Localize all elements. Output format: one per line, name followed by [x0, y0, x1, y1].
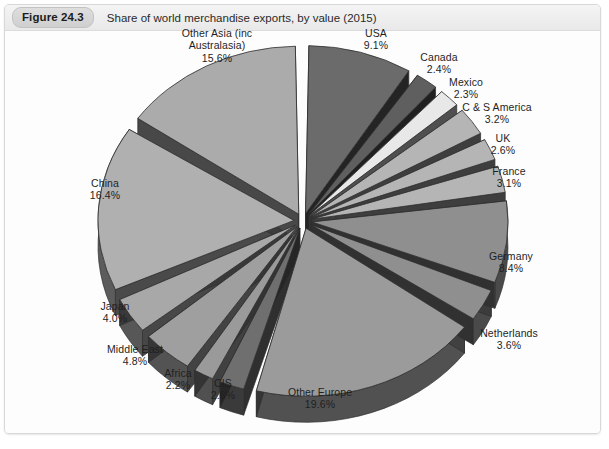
label-value: 3.6%	[497, 339, 521, 351]
label-mexico: Mexico2.3%	[435, 76, 497, 101]
label-text: C & S America	[462, 101, 532, 113]
label-text: Mexico	[449, 76, 483, 88]
label-c-s-america: C & S America3.2%	[445, 101, 549, 126]
figure-title: Share of world merchandise exports, by v…	[107, 12, 377, 24]
label-value: 4.8%	[123, 355, 147, 367]
label-text: UK	[496, 132, 511, 144]
label-other-asia: Other Asia (inc Australasia)15.6%	[161, 27, 273, 64]
label-cis: CIS2.6%	[203, 377, 243, 402]
label-value: 2.6%	[211, 389, 235, 401]
label-text: Germany	[489, 250, 533, 262]
label-usa: USA9.1%	[348, 27, 404, 52]
label-text: Canada	[420, 51, 457, 63]
label-value: 15.6%	[202, 52, 232, 64]
label-value: 2.4%	[427, 63, 451, 75]
figure-number-badge: Figure 24.3	[12, 7, 94, 28]
label-france: France3.1%	[479, 165, 539, 190]
label-text: China	[91, 177, 119, 189]
label-text: Japan	[100, 300, 129, 312]
label-japan: Japan4.0%	[87, 300, 143, 325]
label-value: 9.1%	[364, 39, 388, 51]
label-text: Middle East	[107, 343, 163, 355]
label-value: 2.2%	[166, 379, 190, 391]
label-text: Other Europe	[288, 386, 352, 398]
label-text: CIS	[214, 377, 232, 389]
label-germany: Germany8.4%	[473, 250, 549, 275]
label-other-europe: Other Europe19.6%	[271, 386, 369, 411]
pie-chart-svg	[5, 31, 601, 434]
label-value: 2.3%	[454, 88, 478, 100]
label-value: 16.4%	[90, 189, 120, 201]
label-value: 3.1%	[497, 177, 521, 189]
label-text: Other Asia (inc Australasia)	[182, 27, 252, 51]
label-china: China16.4%	[77, 177, 133, 202]
label-middle-east: Middle East4.8%	[91, 343, 179, 368]
label-value: 4.0%	[103, 312, 127, 324]
label-text: USA	[365, 27, 387, 39]
label-africa: Africa2.2%	[153, 367, 203, 392]
label-value: 8.4%	[499, 262, 523, 274]
label-value: 3.2%	[485, 113, 509, 125]
label-value: 2.6%	[491, 144, 515, 156]
label-uk: UK2.6%	[479, 132, 527, 157]
label-text: France	[492, 165, 525, 177]
label-text: Netherlands	[480, 327, 538, 339]
figure-card: Figure 24.3 Share of world merchandise e…	[4, 4, 601, 434]
label-value: 19.6%	[305, 398, 335, 410]
figure-header: Figure 24.3 Share of world merchandise e…	[5, 5, 600, 31]
label-canada: Canada2.4%	[408, 51, 470, 76]
label-text: Africa	[164, 367, 191, 379]
pie-chart-area	[5, 31, 600, 434]
label-netherlands: Netherlands3.6%	[463, 327, 555, 352]
